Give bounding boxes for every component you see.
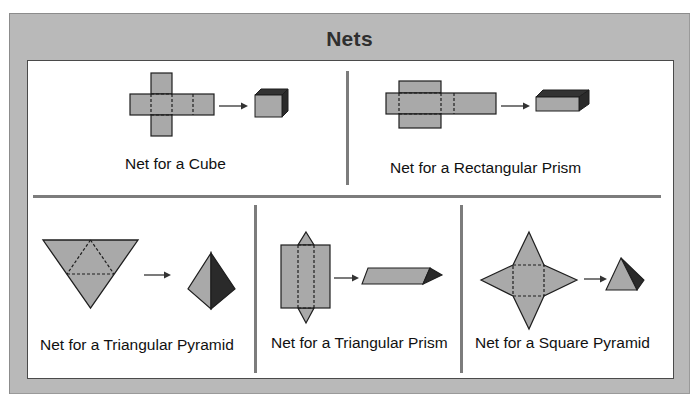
square-pyramid-solid-icon [606, 258, 646, 292]
net-label-cube: Net for a Cube [125, 155, 226, 173]
divider-bottom-right [460, 205, 463, 373]
nets-grid: Net for a Cube [27, 60, 674, 379]
nets-panel: Nets [9, 13, 690, 394]
divider-horizontal [33, 195, 661, 198]
triangular-pyramid-net-icon [43, 239, 139, 309]
divider-bottom-left [254, 205, 257, 373]
arrow-icon [219, 102, 249, 110]
net-label-triangular-prism: Net for a Triangular Prism [271, 334, 448, 352]
arrow-icon [334, 274, 360, 282]
arrow-icon [501, 102, 531, 110]
triangular-prism-net-icon [281, 232, 331, 324]
rectangular-prism-solid-icon [536, 90, 590, 114]
cube-net-icon [130, 73, 220, 135]
net-label-triangular-pyramid: Net for a Triangular Pyramid [40, 336, 234, 354]
rectangular-prism-net-icon [386, 81, 498, 131]
cube-solid-icon [255, 89, 289, 119]
square-pyramid-net-icon [481, 232, 579, 330]
divider-top-vertical [346, 71, 349, 185]
net-label-rectangular-prism: Net for a Rectangular Prism [390, 159, 581, 177]
triangular-prism-solid-icon [362, 267, 444, 285]
arrow-icon [584, 275, 608, 283]
panel-title: Nets [9, 27, 690, 51]
arrow-icon [144, 271, 172, 279]
triangular-pyramid-solid-icon [188, 253, 236, 311]
net-label-square-pyramid: Net for a Square Pyramid [475, 334, 650, 352]
